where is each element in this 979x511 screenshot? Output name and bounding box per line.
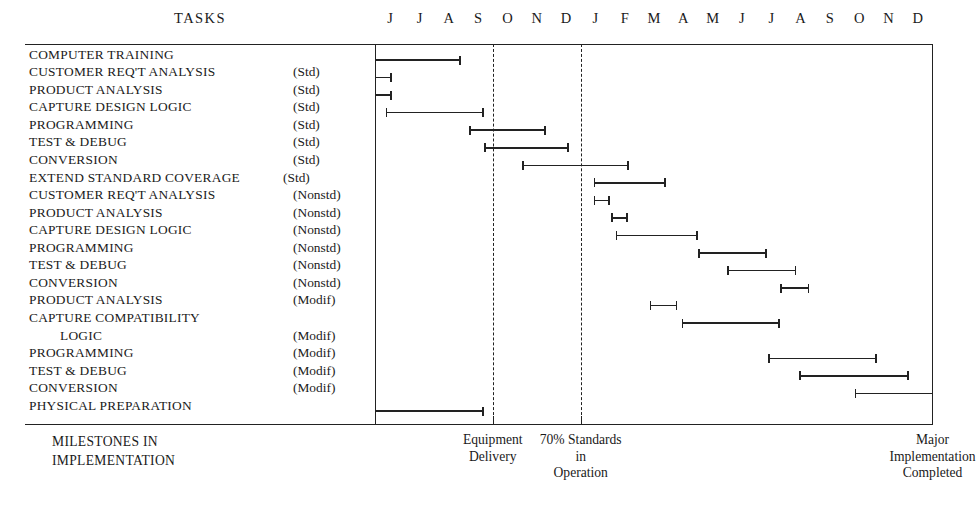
- task-name-label: CAPTURE DESIGN LOGIC: [29, 222, 192, 238]
- task-name-label: PROGRAMMING: [29, 345, 134, 361]
- task-name-label: LOGIC: [60, 328, 102, 344]
- chart-right-axis: [932, 44, 933, 425]
- task-bar: [484, 147, 569, 149]
- tasks-column-header: TASKS: [25, 10, 375, 27]
- month-tick-label: A: [673, 10, 693, 27]
- month-tick-label: S: [820, 10, 840, 27]
- month-tick-label: J: [732, 10, 752, 27]
- task-bar: [469, 129, 545, 131]
- month-tick-label: D: [556, 10, 576, 27]
- top-rule: [25, 44, 933, 45]
- milestone-tick: [581, 416, 582, 425]
- task-bar: [386, 112, 484, 114]
- task-qualifier-label: (Nonstd): [293, 275, 341, 291]
- task-bar: [650, 305, 678, 307]
- month-tick-label: J: [409, 10, 429, 27]
- task-qualifier-label: (Std): [293, 99, 320, 115]
- month-tick-label: S: [468, 10, 488, 27]
- task-name-label: EXTEND STANDARD COVERAGE: [29, 170, 240, 186]
- task-qualifier-label: (Nonstd): [293, 240, 341, 256]
- month-tick-label: J: [761, 10, 781, 27]
- task-bar: [698, 252, 767, 254]
- task-bar: [594, 200, 610, 202]
- task-qualifier-label: (Nonstd): [293, 187, 341, 203]
- chart-left-axis: [375, 44, 376, 425]
- task-bar: [727, 270, 796, 272]
- task-bar: [780, 287, 809, 289]
- milestone-label: 70% Standards in Operation: [486, 432, 676, 482]
- task-name-label: TEST & DEBUG: [29, 363, 127, 379]
- month-tick-label: F: [615, 10, 635, 27]
- task-qualifier-label: (Modif): [293, 380, 335, 396]
- task-bar: [376, 77, 392, 79]
- milestone-tick: [493, 416, 494, 425]
- milestones-caption-line-2: IMPLEMENTATION: [52, 451, 175, 470]
- task-bar: [682, 322, 780, 324]
- month-tick-label: O: [497, 10, 517, 27]
- task-qualifier-label: (Std): [293, 134, 320, 150]
- task-qualifier-label: (Nonstd): [293, 205, 341, 221]
- task-bar: [376, 59, 461, 61]
- task-name-label: CUSTOMER REQ'T ANALYSIS: [29, 64, 215, 80]
- month-tick-label: A: [439, 10, 459, 27]
- task-name-label: CAPTURE COMPATIBILITY: [29, 310, 200, 326]
- task-bar: [611, 217, 627, 219]
- milestone-guide-line: [493, 44, 494, 425]
- task-bar: [768, 358, 876, 360]
- task-name-label: PRODUCT ANALYSIS: [29, 205, 163, 221]
- task-name-label: TEST & DEBUG: [29, 257, 127, 273]
- task-name-label: CONVERSION: [29, 275, 118, 291]
- task-name-label: COMPUTER TRAINING: [29, 47, 174, 63]
- task-name-label: PROGRAMMING: [29, 117, 134, 133]
- month-tick-label: N: [527, 10, 547, 27]
- month-tick-label: D: [908, 10, 928, 27]
- month-tick-label: M: [703, 10, 723, 27]
- task-name-label: PRODUCT ANALYSIS: [29, 292, 163, 308]
- task-qualifier-label: (Modif): [293, 328, 335, 344]
- task-bar: [594, 182, 666, 184]
- milestone-label: Major Implementation Completed: [838, 432, 979, 482]
- month-tick-label: M: [644, 10, 664, 27]
- task-name-label: PRODUCT ANALYSIS: [29, 82, 163, 98]
- task-bar: [855, 393, 933, 395]
- task-qualifier-label: (Std): [293, 117, 320, 133]
- task-qualifier-label: (Std): [283, 170, 310, 186]
- milestones-caption-line-1: MILESTONES IN: [52, 432, 175, 451]
- bottom-rule: [25, 424, 933, 425]
- task-bar: [376, 94, 392, 96]
- month-tick-label: J: [380, 10, 400, 27]
- month-tick-label: J: [585, 10, 605, 27]
- task-name-label: TEST & DEBUG: [29, 134, 127, 150]
- task-name-label: CONVERSION: [29, 152, 118, 168]
- milestones-caption: MILESTONES IN IMPLEMENTATION: [52, 432, 175, 470]
- task-qualifier-label: (Std): [293, 152, 320, 168]
- task-bar: [799, 375, 909, 377]
- task-qualifier-label: (Std): [293, 64, 320, 80]
- task-name-label: CAPTURE DESIGN LOGIC: [29, 99, 192, 115]
- gantt-chart-figure: TASKS JJASONDJFMAMJJASOND COMPUTER TRAIN…: [0, 0, 979, 511]
- task-bar: [522, 165, 629, 167]
- task-qualifier-label: (Nonstd): [293, 257, 341, 273]
- task-name-label: PROGRAMMING: [29, 240, 134, 256]
- month-tick-label: A: [791, 10, 811, 27]
- task-name-label: PHYSICAL PREPARATION: [29, 398, 192, 414]
- milestone-guide-line: [581, 44, 582, 425]
- month-tick-label: N: [879, 10, 899, 27]
- task-bar: [616, 235, 698, 237]
- task-qualifier-label: (Modif): [293, 363, 335, 379]
- month-tick-label: O: [849, 10, 869, 27]
- task-bar: [376, 410, 484, 412]
- task-qualifier-label: (Nonstd): [293, 222, 341, 238]
- task-name-label: CONVERSION: [29, 380, 118, 396]
- task-qualifier-label: (Modif): [293, 292, 335, 308]
- task-name-label: CUSTOMER REQ'T ANALYSIS: [29, 187, 215, 203]
- task-qualifier-label: (Std): [293, 82, 320, 98]
- task-qualifier-label: (Modif): [293, 345, 335, 361]
